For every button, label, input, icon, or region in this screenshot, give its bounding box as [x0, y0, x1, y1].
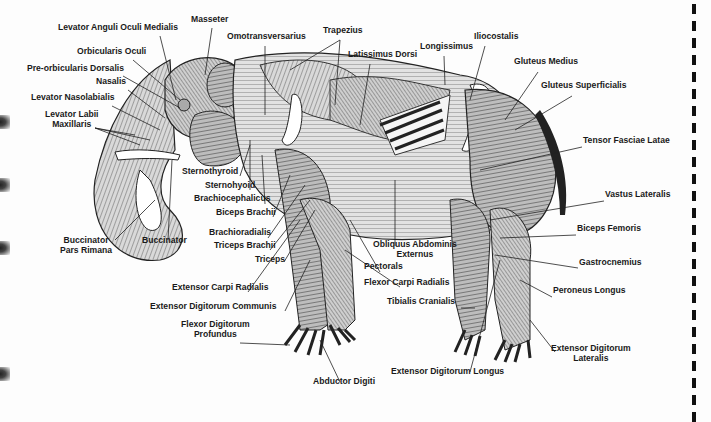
- cut-line-dash: [692, 276, 696, 286]
- cut-line-dash: [692, 21, 696, 31]
- binding-hole: [0, 367, 10, 381]
- label-gastrocnemius: Gastrocnemius: [579, 257, 642, 267]
- label-levator-nasolabialis: Levator Nasolabialis: [31, 92, 115, 102]
- label-biceps-brachii: Biceps Brachii: [216, 207, 276, 217]
- cut-line-dash: [692, 395, 696, 405]
- label-triceps-brachii: Triceps Brachii: [214, 240, 276, 250]
- label-longissimus: Longissimus: [420, 41, 473, 51]
- cut-line-dash: [692, 72, 696, 82]
- label-flexor-carpi-radialis: Flexor Carpi Radialis: [364, 277, 450, 287]
- cut-line-dash: [692, 259, 696, 269]
- cut-line-dash: [692, 344, 696, 354]
- label-gluteus-medius: Gluteus Medius: [514, 56, 578, 66]
- label-sternohyoid: Sternohyoid: [205, 180, 255, 190]
- label-omotransversarius: Omotransversarius: [227, 31, 306, 41]
- label-pectorals: Pectorals: [364, 261, 403, 271]
- cut-line-dash: [692, 378, 696, 388]
- cut-line-dash: [692, 225, 696, 235]
- label-triceps: Triceps: [255, 254, 285, 264]
- label-buccinator-pars-rimana: BuccinatorPars Rimana: [60, 235, 112, 255]
- label-vastus-lateralis: Vastus Lateralis: [605, 189, 670, 199]
- cut-line-dash: [692, 174, 696, 184]
- cut-line-dash: [692, 55, 696, 65]
- cut-line-dash: [692, 89, 696, 99]
- label-latissimus-dorsi: Latissimus Dorsi: [348, 49, 417, 59]
- binding-hole: [0, 241, 10, 255]
- label-extensor-digitorum-lateralis: Extensor DigitorumLateralis: [551, 343, 631, 363]
- cut-line-dash: [692, 191, 696, 201]
- label-peroneus-longus: Peroneus Longus: [553, 285, 626, 295]
- cut-line-dash: [692, 310, 696, 320]
- label-tibialis-cranialis: Tibialis Cranialis: [387, 296, 455, 306]
- cut-line-dash: [692, 38, 696, 48]
- label-obliquus-abdominis-externus: Obliquus AbdominisExternus: [373, 239, 457, 259]
- label-levator-labii-maxillaris: Levator LabiiMaxillaris: [45, 109, 98, 129]
- cut-line-dash: [692, 293, 696, 303]
- binding-hole: [0, 115, 10, 129]
- label-extensor-digitorum-communis: Extensor Digitorum Communis: [150, 301, 277, 311]
- label-flexor-digitorum-profundus: Flexor DigitorumProfundus: [181, 319, 250, 339]
- label-abductor-digiti: Abductor Digiti: [313, 376, 375, 386]
- label-levator-anguli-oculi-medialis: Levator Anguli Oculi Medialis: [58, 22, 178, 32]
- label-iliocostalis: Iliocostalis: [474, 31, 518, 41]
- cut-line-dash: [692, 242, 696, 252]
- label-brachioradialis: Brachioradialis: [209, 227, 271, 237]
- cut-line-dash: [692, 106, 696, 116]
- cut-line-dash: [692, 208, 696, 218]
- cut-line-dash: [692, 140, 696, 150]
- label-nasalis: Nasalis: [96, 76, 126, 86]
- label-sternothyroid: Sternothyroid: [182, 166, 238, 176]
- label-extensor-carpi-radialis: Extensor Carpi Radialis: [172, 282, 268, 292]
- cut-line-dash: [692, 412, 696, 422]
- label-masseter: Masseter: [191, 14, 228, 24]
- binding-hole: [0, 178, 10, 192]
- label-tensor-fasciae-latae: Tensor Fasciae Latae: [583, 135, 670, 145]
- label-trapezius: Trapezius: [323, 25, 363, 35]
- cut-line-dash: [692, 123, 696, 133]
- label-extensor-digitorum-longus: Extensor Digitorum Longus: [391, 366, 504, 376]
- label-gluteus-superficialis: Gluteus Superficialis: [541, 80, 626, 90]
- label-pre-orbicularis-dorsalis: Pre-orbicularis Dorsalis: [27, 63, 124, 73]
- cut-line-dash: [692, 361, 696, 371]
- label-buccinator: Buccinator: [142, 235, 187, 245]
- cut-line-dash: [692, 4, 696, 14]
- label-orbicularis-oculi: Orbicularis Oculi: [77, 46, 146, 56]
- label-biceps-femoris: Biceps Femoris: [577, 223, 641, 233]
- cut-line-dash: [692, 327, 696, 337]
- cut-line-dash: [692, 157, 696, 167]
- label-brachiocephalicus: Brachiocephalicus: [194, 193, 270, 203]
